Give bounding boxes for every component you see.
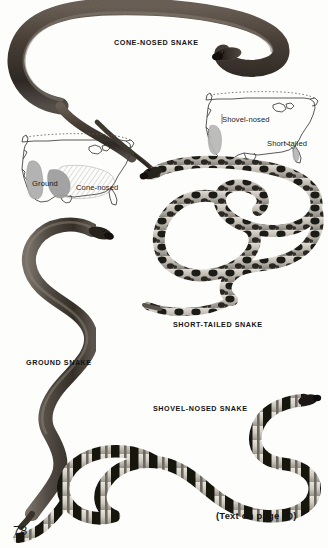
caption-short-tailed-snake: SHORT-TAILED SNAKE <box>173 320 263 329</box>
caption-shovel-nosed-snake: SHOVEL-NOSED SNAKE <box>153 404 248 413</box>
caption-cone-nosed-snake: CONE-NOSED SNAKE <box>114 38 199 47</box>
short-tailed-snake-illustration <box>140 152 328 332</box>
text-reference-note: (Text on page 80) <box>216 510 297 521</box>
caption-ground-snake: GROUND SNAKE <box>26 358 92 367</box>
page-number: 78 <box>13 524 28 538</box>
map-label-short-tailed: Short-tailed <box>267 139 307 148</box>
map-label-cone-nosed: Cone-nosed <box>76 183 118 192</box>
illustration-plate: CONE-NOSED SNAKE <box>0 0 328 548</box>
map-label-shovel-nosed: Shovel-nosed <box>222 115 270 124</box>
map-label-ground: Ground <box>32 179 58 188</box>
range-map-ground-cone-nosed <box>12 126 138 206</box>
